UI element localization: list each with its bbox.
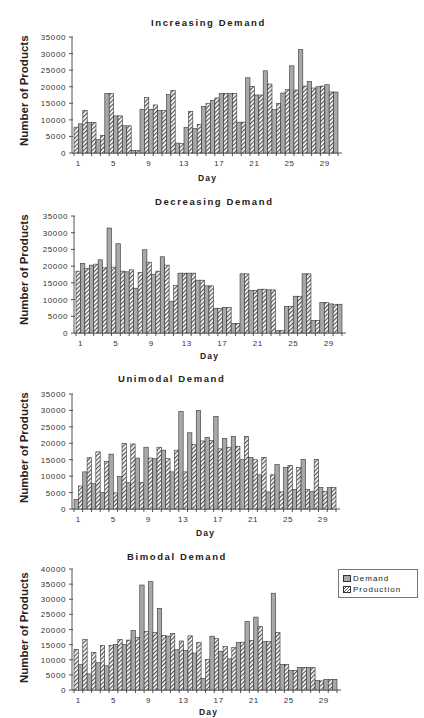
legend-item-production: Production — [343, 585, 401, 594]
bar-demand — [122, 645, 126, 690]
bar-demand — [175, 650, 179, 690]
bar-production — [328, 679, 332, 690]
legend: Demand Production — [338, 569, 418, 598]
bar-production — [162, 636, 166, 690]
bar-demand — [87, 674, 91, 690]
x-tick-label: 5 — [111, 696, 116, 705]
x-tick-label: 1 — [76, 696, 81, 705]
bar-production — [249, 641, 253, 690]
bar-production — [179, 641, 183, 690]
bar-production — [83, 639, 87, 690]
bar-demand — [140, 585, 144, 690]
bar-demand — [324, 679, 328, 690]
x-tick-label: 9 — [146, 696, 151, 705]
bar-production — [276, 633, 280, 690]
production-swatch-icon — [343, 586, 351, 593]
bar-demand — [315, 681, 319, 690]
y-tick-label: 40000 — [41, 565, 66, 574]
bar-demand — [105, 666, 109, 690]
bar-production — [135, 638, 139, 690]
bar-demand — [245, 622, 249, 690]
bar-production — [92, 652, 96, 690]
bar-production — [118, 639, 122, 690]
legend-label: Production — [353, 585, 401, 594]
bar-demand — [78, 665, 82, 690]
bar-demand — [254, 617, 258, 690]
x-tick-label: 29 — [319, 696, 329, 705]
bar-production — [302, 668, 306, 690]
y-tick-label: 25000 — [41, 610, 66, 619]
plot-area: 0500010000150002000025000300003500040000… — [0, 0, 424, 718]
bar-production — [214, 639, 218, 690]
y-tick-label: 20000 — [41, 626, 66, 635]
bar-demand — [210, 636, 214, 690]
bar-demand — [149, 582, 153, 690]
bar-production — [232, 648, 236, 690]
demand-swatch-icon — [343, 575, 351, 582]
bar-production — [206, 659, 210, 690]
chart-bimodal-demand: Bimodal Demand Number of Products Day 05… — [0, 0, 424, 718]
bar-demand — [289, 670, 293, 690]
legend-label: Demand — [353, 574, 389, 583]
x-tick-label: 17 — [214, 696, 224, 705]
bar-production — [144, 632, 148, 690]
bar-production — [258, 626, 262, 690]
bar-production — [170, 633, 174, 690]
bar-demand — [131, 630, 135, 690]
bar-production — [311, 668, 315, 690]
bar-production — [284, 665, 288, 690]
bar-production — [188, 636, 192, 690]
bar-demand — [157, 608, 161, 690]
bar-demand — [184, 651, 188, 690]
y-tick-label: 35000 — [41, 580, 66, 589]
x-tick-label: 13 — [179, 696, 189, 705]
bar-demand — [96, 663, 100, 690]
bar-production — [293, 671, 297, 690]
bar-demand — [262, 642, 266, 690]
bar-demand — [166, 636, 170, 690]
bar-demand — [280, 664, 284, 690]
bar-production — [267, 642, 271, 690]
x-tick-label: 21 — [249, 696, 259, 705]
x-tick-label: 25 — [284, 696, 294, 705]
y-tick-label: 15000 — [41, 641, 66, 650]
bar-production — [127, 640, 131, 690]
bar-production — [109, 645, 113, 690]
bar-production — [241, 642, 245, 690]
bar-demand — [219, 651, 223, 690]
legend-item-demand: Demand — [343, 574, 389, 583]
bar-demand — [306, 668, 310, 690]
y-tick-label: 30000 — [41, 595, 66, 604]
bar-production — [153, 633, 157, 690]
bar-production — [197, 643, 201, 690]
bar-demand — [271, 593, 275, 690]
bar-demand — [227, 659, 231, 690]
bar-demand — [201, 679, 205, 690]
bar-production — [100, 646, 104, 690]
bar-production — [223, 646, 227, 690]
bar-demand — [333, 679, 337, 690]
bar-production — [74, 649, 78, 690]
bar-production — [319, 681, 323, 690]
bar-demand — [192, 653, 196, 690]
y-tick-label: 10000 — [41, 656, 66, 665]
bar-demand — [236, 643, 240, 690]
y-tick-label: 5000 — [46, 671, 66, 680]
y-tick-label: 0 — [61, 686, 66, 695]
bar-demand — [298, 668, 302, 690]
bar-demand — [113, 645, 117, 690]
